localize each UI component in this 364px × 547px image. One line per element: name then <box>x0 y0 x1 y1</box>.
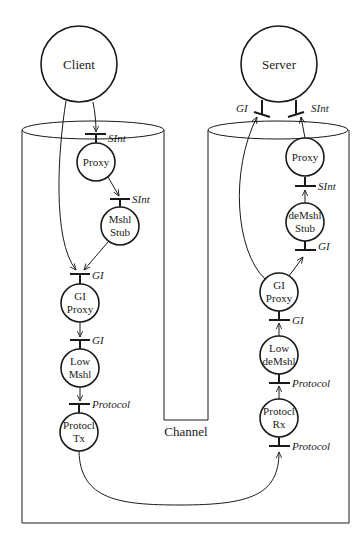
low-demshl-node: Low deMshl <box>260 336 298 374</box>
mshl-stub-node: Mshl Stub <box>101 207 139 245</box>
svg-text:SInt: SInt <box>108 132 127 144</box>
svg-text:Proxy: Proxy <box>67 303 94 315</box>
server-interface-sint: SInt <box>288 100 330 117</box>
protocl-tx-node: Protocl Tx <box>60 413 98 451</box>
svg-text:Stub: Stub <box>295 222 316 234</box>
interface-protocol-rx-in: Protocol <box>269 437 330 452</box>
svg-text:Rx: Rx <box>273 418 286 430</box>
interface-gi-server-proxy: GI <box>269 311 305 326</box>
svg-text:Tx: Tx <box>73 432 86 444</box>
svg-text:Proxy: Proxy <box>266 292 293 304</box>
right-cylinder-top <box>208 121 348 139</box>
left-cylinder-top <box>22 121 164 139</box>
server-gi-proxy-node: GI Proxy <box>260 273 298 311</box>
svg-text:deMshl: deMshl <box>289 209 322 221</box>
svg-text:Proxy: Proxy <box>83 156 110 168</box>
svg-text:Protocol: Protocol <box>91 398 130 410</box>
svg-text:Proxy: Proxy <box>292 151 319 163</box>
svg-text:GI: GI <box>92 269 105 281</box>
interface-protocol-low-demshl: Protocol <box>269 374 330 389</box>
interface-gi-1: GI <box>70 269 105 284</box>
svg-text:GI: GI <box>236 102 249 114</box>
svg-text:deMshl: deMshl <box>263 355 296 367</box>
svg-text:Protocl: Protocl <box>63 419 95 431</box>
client-proxy-node: Proxy <box>77 143 115 181</box>
svg-text:SInt: SInt <box>132 193 151 205</box>
server-node: Server <box>241 26 317 102</box>
interface-sint-1: SInt <box>85 132 127 144</box>
interface-sint-server-proxy: SInt <box>295 177 337 192</box>
svg-text:SInt: SInt <box>311 102 330 114</box>
server-interface-gi: GI <box>236 100 270 117</box>
svg-text:Client: Client <box>63 57 95 72</box>
svg-text:Protocol: Protocol <box>291 377 330 389</box>
client-gi-proxy-node: GI Proxy <box>61 284 99 322</box>
svg-text:Protocl: Protocl <box>263 405 295 417</box>
demshl-stub-node: deMshl Stub <box>286 203 324 241</box>
svg-text:Mshl: Mshl <box>109 213 132 225</box>
container-outline <box>22 130 349 523</box>
svg-text:Mshl: Mshl <box>69 368 92 380</box>
protocl-rx-node: Protocl Rx <box>260 399 298 437</box>
client-node: Client <box>41 26 117 102</box>
interface-sint-2: SInt <box>110 193 151 207</box>
server-proxy-node: Proxy <box>286 138 324 176</box>
svg-text:Protocol: Protocol <box>291 440 330 452</box>
interface-gi-2: GI <box>70 334 105 350</box>
channel-label: Channel <box>164 424 208 439</box>
svg-text:GI: GI <box>318 240 331 252</box>
interface-gi-demshl: GI <box>295 240 331 252</box>
svg-text:Stub: Stub <box>110 226 131 238</box>
svg-text:GI: GI <box>292 314 305 326</box>
svg-text:GI: GI <box>92 334 105 346</box>
channel-diagram: Channel Client Server SInt Proxy SInt Ms… <box>0 0 364 547</box>
svg-text:SInt: SInt <box>318 180 337 192</box>
svg-text:Server: Server <box>262 57 297 72</box>
svg-text:Low: Low <box>70 355 90 367</box>
low-mshl-node: Low Mshl <box>61 349 99 387</box>
svg-text:GI: GI <box>74 290 86 302</box>
interface-protocol-tx: Protocol <box>69 398 130 413</box>
svg-text:GI: GI <box>273 279 285 291</box>
svg-text:Low: Low <box>269 342 289 354</box>
